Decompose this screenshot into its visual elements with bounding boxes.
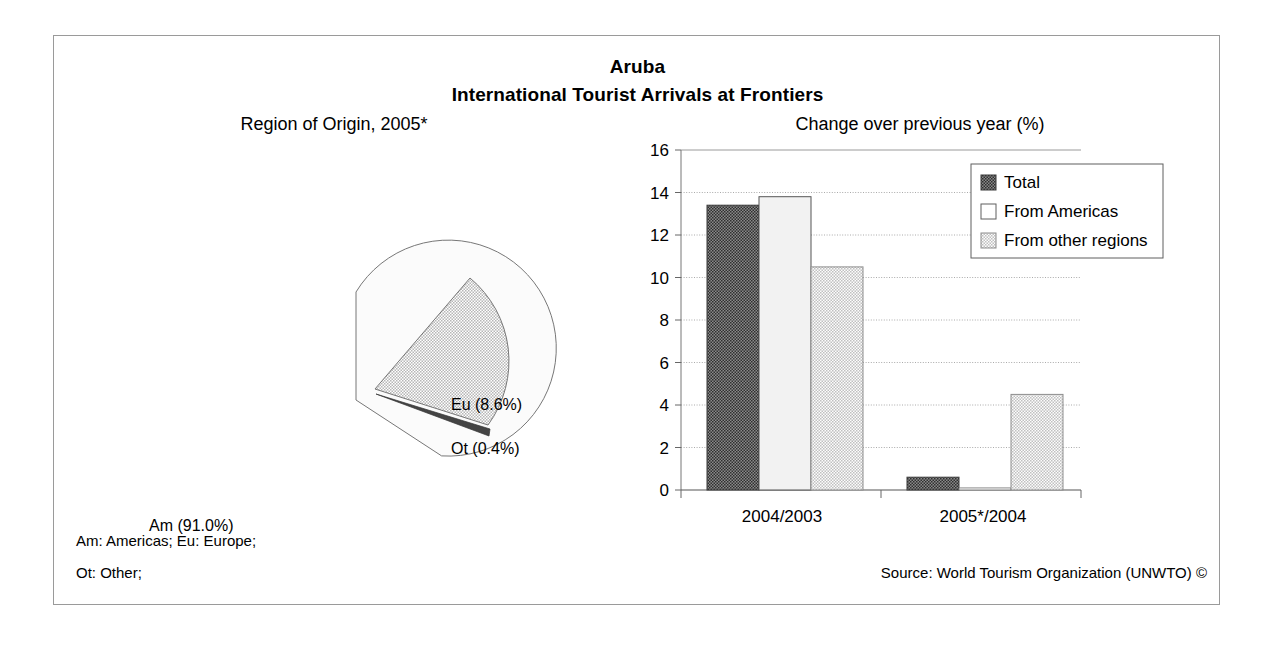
source-note: Source: World Tourism Organization (UNWT… [881,564,1207,581]
y-tick-12: 12 [650,226,669,245]
y-tick-6: 6 [660,354,669,373]
pie-svg [54,140,614,530]
bar-2004-2003-from-americas [759,197,811,490]
abbreviation-note-line-2: Ot: Other; [76,564,142,581]
legend-swatch-total [981,175,996,190]
pie-chart-panel: Region of Origin, 2005* [54,114,654,544]
bar-2005-2004-total [907,477,959,490]
bar-2004-2003-from-other-regions [811,267,863,490]
bar-chart-svg: 16 14 12 10 8 6 4 2 0 [619,142,1221,562]
page-subtitle: International Tourist Arrivals at Fronti… [54,84,1221,106]
bar-chart-legend: Total From Americas From other regions [971,164,1163,258]
y-tick-8: 8 [660,311,669,330]
chart-frame: Aruba International Tourist Arrivals at … [53,35,1220,605]
pie-chart-title: Region of Origin, 2005* [54,114,614,135]
legend-label-from-americas: From Americas [1004,202,1118,221]
bar-2005-2004-from-other-regions [1011,394,1063,490]
page-title: Aruba [54,56,1221,78]
legend-label-from-other-regions: From other regions [1004,231,1148,250]
pie-chart-plot: Eu (8.6%) Ot (0.4%) Am (91.0%) [54,140,614,530]
abbreviation-note-line-1: Am: Americas; Eu: Europe; [76,532,256,549]
y-tick-16: 16 [650,142,669,160]
bar-chart-panel: Change over previous year (%) [619,114,1221,584]
legend-swatch-from-americas [981,204,996,219]
bar-2005-2004-from-americas [959,488,1011,490]
y-tick-0: 0 [660,481,669,500]
legend-label-total: Total [1004,173,1040,192]
pie-label-eu: Eu (8.6%) [451,396,522,414]
x-tick-2004-2003: 2004/2003 [742,507,822,526]
y-tick-14: 14 [650,184,669,203]
legend-swatch-from-other-regions [981,233,996,248]
y-tick-labels: 16 14 12 10 8 6 4 2 0 [650,142,669,500]
pie-label-ot: Ot (0.4%) [451,440,519,458]
bar-2004-2003-total [707,205,759,490]
y-tick-4: 4 [660,396,669,415]
y-tick-marks [675,150,681,490]
y-tick-10: 10 [650,269,669,288]
bar-chart-title: Change over previous year (%) [619,114,1221,135]
chart-image: Aruba International Tourist Arrivals at … [0,0,1270,650]
x-tick-labels: 2004/2003 2005*/2004 [742,507,1027,526]
x-tick-2005-2004: 2005*/2004 [940,507,1027,526]
x-tick-marks [681,490,1081,498]
y-tick-2: 2 [660,439,669,458]
